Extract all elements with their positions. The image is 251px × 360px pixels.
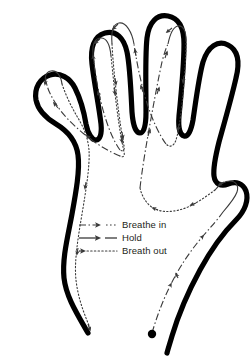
legend-swatch-solid-icon [78,232,118,244]
breathe-in-arrow [135,50,136,56]
hold-segment [93,38,111,56]
legend-label-hold: Hold [118,232,142,244]
hand-outline [36,16,247,353]
trace-middle-breath-out [112,44,124,151]
breathe-in-segment [134,44,166,144]
legend-item-breath-out: Breath out [78,245,182,257]
legend-label-breath-out: Breath out [118,245,167,257]
trace-index-breath-out [111,56,124,157]
legend: Breathe in Hold Breath out [78,219,182,257]
breathe-in-arrow [165,52,167,58]
hand-diagram-svg [0,0,251,360]
trace-middle-breathe-in [134,44,166,144]
legend-swatch-dash-dot-icon [78,219,118,231]
breathe-in-arrow [176,274,178,278]
legend-item-hold: Hold [78,232,182,244]
hand-outline-path [36,16,247,353]
hand-breathing-figure: Breathe in Hold Breath out [0,0,251,360]
trace-thumb-breath-out [140,188,215,211]
breath-out-arrow [153,208,158,210]
legend-label-breathe-in: Breathe in [118,219,166,231]
legend-swatch-dotted-icon [78,245,118,257]
trace-index-hold [93,38,111,56]
start-dot [148,330,156,338]
breathe-in-arrow [157,88,159,94]
breath-out-arrow [121,136,122,142]
hold-arrow [167,28,172,32]
legend-item-breathe-in: Breathe in [78,219,182,231]
breath-out-arrow [122,132,123,138]
breath-out-segment [140,188,215,211]
